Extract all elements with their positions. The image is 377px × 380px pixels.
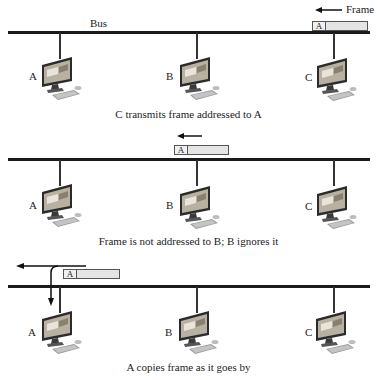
- drop-line-b: [196, 33, 198, 59]
- station-label-c: C: [305, 200, 312, 212]
- station-label-c: C: [305, 71, 312, 83]
- computer-a-icon: [38, 184, 84, 228]
- frame-packet: A: [174, 145, 229, 155]
- computer-a-icon: [38, 57, 84, 101]
- station-label-b: B: [166, 70, 173, 82]
- drop-line-c: [333, 287, 335, 313]
- drop-line-b: [196, 160, 198, 186]
- panel-2: A A B C Frame is not addressed to B; B i…: [0, 125, 377, 252]
- computer-c-icon: [313, 186, 359, 230]
- station-label-a: A: [29, 70, 37, 82]
- computer-c-icon: [313, 58, 359, 102]
- drop-line-b: [196, 287, 198, 313]
- frame-address: A: [313, 22, 326, 30]
- frame-direction-arrow-icon: [177, 132, 203, 140]
- copy-to-station-arrow-icon: [16, 258, 88, 306]
- computer-b-icon: [176, 57, 222, 101]
- drop-line-c: [333, 160, 335, 186]
- bus-line: [8, 31, 370, 34]
- panel-caption: A copies frame as it goes by: [0, 361, 377, 373]
- computer-c-icon: [312, 311, 358, 355]
- computer-a-icon: [38, 311, 84, 355]
- drop-line-a: [59, 33, 61, 59]
- station-label-b: B: [165, 326, 172, 338]
- panel-3: A A B C A copies frame as it goes by: [0, 250, 377, 377]
- panel-caption: Frame is not addressed to B; B ignores i…: [0, 235, 377, 247]
- station-label-a: A: [28, 326, 36, 338]
- panel-caption: C transmits frame addressed to A: [0, 108, 377, 120]
- frame-direction-arrow-icon: [315, 6, 343, 14]
- frame-packet: A: [63, 269, 120, 279]
- panel-1: Bus Frame A A B C C transmits frame addr…: [0, 0, 377, 127]
- frame-address: A: [175, 146, 188, 154]
- frame-label: Frame: [346, 3, 374, 15]
- bus-label: Bus: [90, 17, 107, 29]
- computer-b-icon: [176, 186, 222, 230]
- drop-line-a: [59, 160, 61, 186]
- drop-line-a: [59, 287, 61, 313]
- station-label-a: A: [29, 199, 37, 211]
- bus-line: [8, 158, 370, 161]
- frame-packet: A: [312, 21, 368, 31]
- frame-address: A: [64, 270, 77, 278]
- bus-line: [8, 285, 370, 288]
- station-label-b: B: [166, 199, 173, 211]
- drop-line-c: [333, 33, 335, 59]
- computer-b-icon: [175, 311, 221, 355]
